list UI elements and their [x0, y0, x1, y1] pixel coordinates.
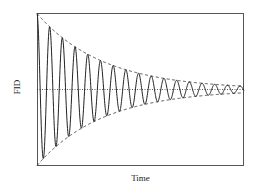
upper-envelope	[37, 14, 244, 87]
y-axis-label: FID	[12, 74, 22, 100]
fid-signal-line	[37, 14, 244, 159]
fid-chart	[0, 0, 256, 192]
x-axis-label: Time	[37, 173, 244, 183]
